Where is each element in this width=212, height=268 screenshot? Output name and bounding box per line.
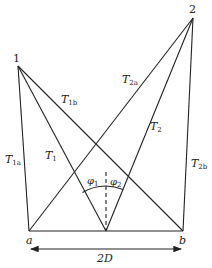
ray-path-diagram: 1 2 a b T1b T2a T2 T1a T1 T2b φ1 φ2 2D [0, 0, 212, 268]
label-2D: 2D [96, 252, 113, 265]
label-T2: T2 [150, 120, 162, 134]
ray-T2a [29, 18, 193, 231]
label-T2b: T2b [191, 157, 208, 171]
ray-T1b [18, 66, 183, 231]
point-b-label: b [179, 234, 186, 247]
label-phi1: φ1 [87, 175, 98, 188]
label-T1b: T1b [61, 93, 78, 107]
point-1-label: 1 [13, 52, 20, 65]
point-2-label: 2 [189, 3, 196, 16]
ray-T2b [183, 18, 193, 231]
label-T1: T1 [45, 149, 57, 163]
label-T1a: T1a [5, 153, 21, 167]
label-T2a: T2a [122, 73, 138, 87]
point-a-label: a [26, 234, 33, 247]
ray-T1a [18, 66, 29, 231]
